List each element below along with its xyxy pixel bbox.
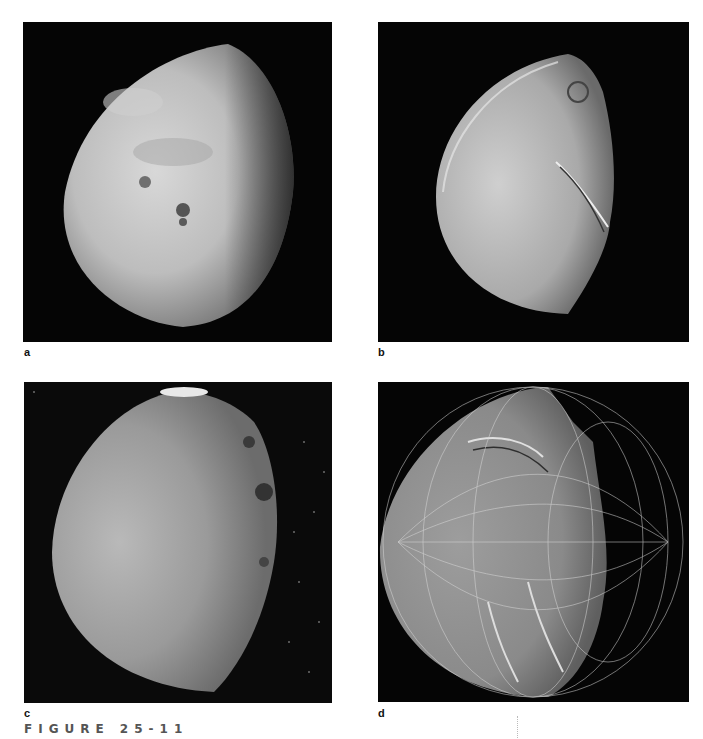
panel-label-a: a <box>24 347 30 358</box>
moon-image-c <box>24 382 332 703</box>
figure-caption: FIGURE 25-11 <box>24 723 188 735</box>
photo-panel-b <box>378 22 689 342</box>
photo-panel-c <box>24 382 332 703</box>
photo-panel-a <box>23 22 332 342</box>
panel-label-d: d <box>378 708 385 719</box>
moon-image-d <box>378 382 689 702</box>
moon-image-a <box>23 22 332 342</box>
moon-image-b <box>378 22 689 342</box>
photo-panel-d <box>378 382 689 702</box>
panel-label-b: b <box>378 347 385 358</box>
margin-mark <box>517 716 518 738</box>
panel-label-c: c <box>24 708 30 719</box>
